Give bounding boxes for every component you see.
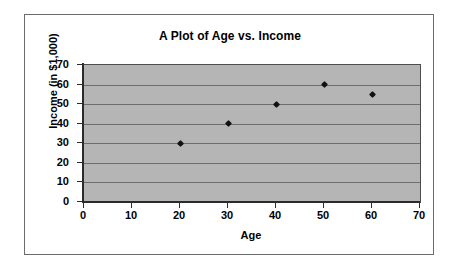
chart-title: A Plot of Age vs. Income bbox=[25, 29, 435, 43]
data-point-marker bbox=[272, 101, 279, 108]
x-axis-tick-label: 30 bbox=[221, 209, 233, 221]
x-axis-tick bbox=[323, 203, 324, 208]
y-axis-tick-label: 0 bbox=[63, 195, 69, 207]
plot-area bbox=[83, 64, 421, 203]
gridline-horizontal bbox=[84, 85, 420, 86]
y-axis-title: Income (in $1,000) bbox=[47, 1, 59, 161]
gridline-horizontal bbox=[84, 104, 420, 105]
gridline-horizontal bbox=[84, 163, 420, 164]
data-point-marker bbox=[368, 91, 375, 98]
x-axis-tick-label: 70 bbox=[413, 209, 425, 221]
x-axis-tick-label: 10 bbox=[125, 209, 137, 221]
chart-frame: A Plot of Age vs. Income 010203040506070… bbox=[24, 14, 434, 255]
x-axis-tick-label: 0 bbox=[80, 209, 86, 221]
gridline-horizontal bbox=[84, 124, 420, 125]
x-axis-ticks bbox=[83, 203, 419, 208]
x-axis-tick-label: 50 bbox=[317, 209, 329, 221]
x-axis-tick bbox=[227, 203, 228, 208]
x-axis-tick-label: 20 bbox=[173, 209, 185, 221]
data-point-marker bbox=[224, 120, 231, 127]
x-axis-tick bbox=[83, 203, 84, 208]
y-axis-tick-label: 10 bbox=[57, 175, 69, 187]
x-axis-tick bbox=[371, 203, 372, 208]
x-axis-tick-label: 40 bbox=[269, 209, 281, 221]
x-axis-tick bbox=[275, 203, 276, 208]
x-axis-tick-label: 60 bbox=[365, 209, 377, 221]
gridline-horizontal bbox=[84, 143, 420, 144]
x-axis-tick bbox=[179, 203, 180, 208]
gridline-horizontal bbox=[84, 182, 420, 183]
x-axis-title: Age bbox=[83, 229, 419, 241]
x-axis-tick-labels: 010203040506070 bbox=[83, 209, 419, 225]
data-point-marker bbox=[176, 140, 183, 147]
x-axis-tick bbox=[419, 203, 420, 208]
data-point-marker bbox=[320, 81, 327, 88]
x-axis-tick bbox=[131, 203, 132, 208]
